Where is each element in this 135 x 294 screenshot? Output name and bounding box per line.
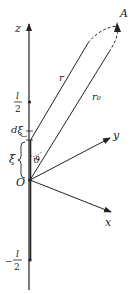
- point-a-marker: [114, 22, 121, 32]
- svg-text:2: 2: [14, 262, 20, 272]
- r-label: r: [59, 72, 65, 83]
- point-a-label: A: [119, 7, 128, 20]
- r0-line: [30, 52, 109, 180]
- element-label: dξ: [11, 124, 23, 135]
- diagram-canvas: z l 2 dξ ξ r r₀ ϑ A y x O − l 2: [0, 0, 135, 294]
- bottom-end-point: [28, 258, 31, 261]
- svg-text:2: 2: [15, 104, 21, 114]
- svg-text:l: l: [16, 91, 19, 101]
- r0-label: r₀: [92, 91, 101, 102]
- y-axis: [30, 138, 110, 180]
- svg-text:l: l: [16, 249, 19, 259]
- z-axis: [29, 24, 31, 290]
- z-axis-label: z: [14, 22, 21, 35]
- origin-point: [28, 178, 32, 182]
- x-axis-label: x: [105, 216, 112, 229]
- xi-brace: [18, 142, 25, 178]
- x-axis: [30, 180, 111, 212]
- bottom-tick-label: − l 2: [5, 249, 22, 272]
- top-end-point: [28, 100, 31, 103]
- top-tick-label: l 2: [14, 91, 22, 114]
- origin-label: O: [16, 176, 25, 189]
- r-dashed: [88, 26, 117, 43]
- r-line: [30, 43, 88, 141]
- xi-label: ξ: [9, 153, 16, 166]
- y-axis-label: y: [112, 129, 120, 142]
- svg-text:−: −: [5, 256, 13, 266]
- angle-label: ϑ: [33, 154, 40, 165]
- r0-dashed: [109, 30, 118, 52]
